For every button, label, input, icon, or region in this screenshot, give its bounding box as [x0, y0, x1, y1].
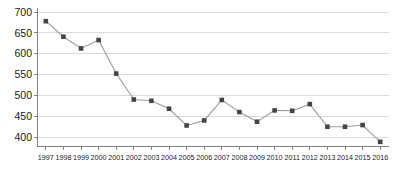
svg-text:2016: 2016: [372, 153, 388, 162]
svg-text:500: 500: [14, 89, 32, 101]
svg-text:550: 550: [14, 68, 32, 80]
svg-text:2005: 2005: [179, 153, 195, 162]
svg-text:2000: 2000: [91, 153, 107, 162]
gridlines: [37, 12, 389, 138]
svg-text:700: 700: [14, 6, 32, 18]
svg-text:2003: 2003: [143, 153, 159, 162]
svg-text:2014: 2014: [337, 153, 353, 162]
svg-text:450: 450: [14, 110, 32, 122]
chart-canvas: 400450500550600650700 199719981999200020…: [0, 0, 393, 169]
svg-text:2004: 2004: [161, 153, 177, 162]
svg-text:2012: 2012: [302, 153, 318, 162]
svg-text:2001: 2001: [108, 153, 124, 162]
svg-text:600: 600: [14, 47, 32, 59]
svg-text:2007: 2007: [214, 153, 230, 162]
line-chart: 400450500550600650700 199719981999200020…: [0, 0, 393, 169]
svg-text:650: 650: [14, 27, 32, 39]
svg-text:2013: 2013: [319, 153, 335, 162]
svg-text:2009: 2009: [249, 153, 265, 162]
svg-text:400: 400: [14, 131, 32, 143]
svg-text:1998: 1998: [55, 153, 71, 162]
svg-text:2015: 2015: [355, 153, 371, 162]
svg-text:2010: 2010: [267, 153, 283, 162]
data-line: [46, 21, 380, 142]
svg-text:1997: 1997: [38, 153, 54, 162]
svg-text:2011: 2011: [284, 153, 299, 162]
svg-text:1999: 1999: [73, 153, 89, 162]
svg-text:2002: 2002: [126, 153, 142, 162]
svg-text:2006: 2006: [196, 153, 212, 162]
x-tick-labels: 1997199819992000200120022003200420052006…: [38, 153, 388, 162]
data-markers: [44, 19, 383, 144]
y-tick-labels: 400450500550600650700: [14, 6, 37, 144]
x-axis: [37, 146, 389, 150]
svg-text:2008: 2008: [231, 153, 247, 162]
